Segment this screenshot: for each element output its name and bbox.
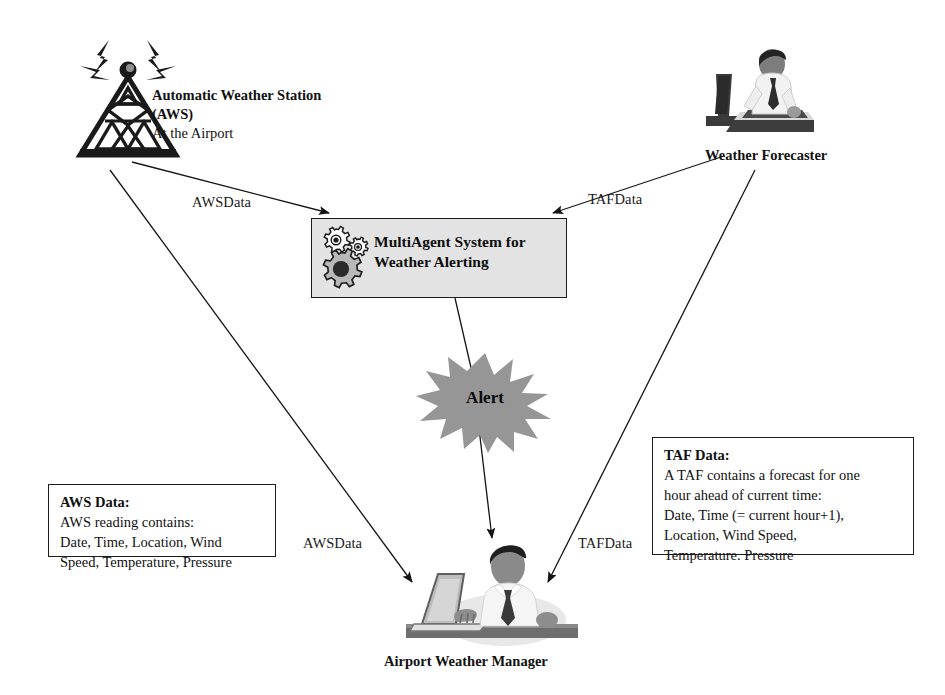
aws-station-label-plain: At the Airport <box>152 124 327 143</box>
edge-label-forecaster-to-mas: TAFData <box>588 191 642 208</box>
weather-forecaster-label: Weather Forecaster <box>705 146 827 165</box>
edge-label-aws-to-manager: AWSData <box>303 535 362 552</box>
edge-label-aws-to-mas: AWSData <box>192 194 251 211</box>
taf-data-title: TAF Data: <box>664 445 904 465</box>
multiagent-system-box[interactable]: MultiAgent System for Weather Alerting <box>311 218 567 298</box>
starburst-icon <box>410 349 560 454</box>
person-with-laptop-icon <box>400 538 586 648</box>
aws-data-body: AWS reading contains: Date, Time, Locati… <box>60 512 266 572</box>
aws-data-title: AWS Data: <box>60 492 266 512</box>
gears-icon <box>318 225 378 291</box>
aws-station-label-bold: Automatic Weather Station (AWS) <box>152 86 327 124</box>
taf-data-body: A TAF contains a forecast for one hour a… <box>664 465 904 565</box>
edge-label-forecaster-to-manager: TAFData <box>578 535 632 552</box>
aws-data-info-box: AWS Data: AWS reading contains: Date, Ti… <box>48 484 276 557</box>
multiagent-system-title: MultiAgent System for Weather Alerting <box>374 232 564 273</box>
airport-weather-manager-label: Airport Weather Manager <box>384 652 548 671</box>
aws-station-label: Automatic Weather Station (AWS) At the A… <box>152 86 327 143</box>
diagram-canvas: Automatic Weather Station (AWS) At the A… <box>0 0 945 695</box>
taf-data-info-box: TAF Data: A TAF contains a forecast for … <box>652 437 914 555</box>
person-at-desk-icon <box>696 42 818 147</box>
